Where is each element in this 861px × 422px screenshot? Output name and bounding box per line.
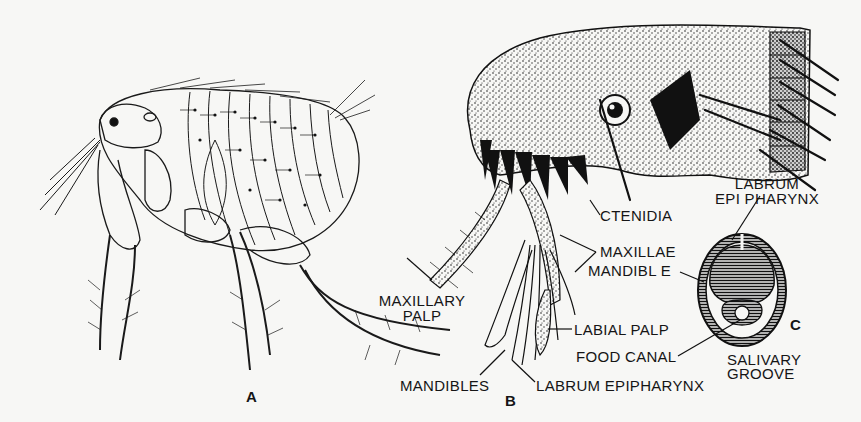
label-maxillary-palp-line1: MAXILLARY xyxy=(372,293,472,308)
panel-a-flea-body xyxy=(40,78,450,370)
label-mandible: MANDIBL E xyxy=(588,263,671,278)
label-salivary-groove: SALIVARY GROOVE xyxy=(727,353,801,381)
label-food-canal: FOOD CANAL xyxy=(576,349,677,364)
label-labrum-epipharynx-c-line2: EPI PHARYNX xyxy=(712,191,822,206)
panel-letter-c: C xyxy=(790,316,801,333)
label-ctenidia: CTENIDIA xyxy=(600,208,672,223)
label-labial-palp: LABIAL PALP xyxy=(574,322,669,337)
panel-c-cross-section xyxy=(698,234,786,346)
label-maxillary-palp-line2: PALP xyxy=(372,308,472,323)
label-maxillary-palp: MAXILLARY PALP xyxy=(372,293,472,323)
label-maxillae: MAXILLAE xyxy=(600,244,676,259)
panel-letter-a: A xyxy=(246,388,257,405)
panel-letter-b: B xyxy=(505,392,516,409)
label-mandibles: MANDIBLES xyxy=(400,378,489,393)
label-labrum-epipharynx-b: LABRUM EPIPHARYNX xyxy=(536,378,704,393)
label-labrum-epipharynx-c-line1: LABRUM xyxy=(712,176,822,191)
label-labrum-epipharynx-c: LABRUM EPI PHARYNX xyxy=(712,176,822,206)
label-salivary-groove-line2: GROOVE xyxy=(727,367,801,381)
